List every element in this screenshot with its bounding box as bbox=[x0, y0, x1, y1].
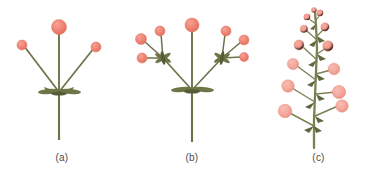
pedicel bbox=[315, 106, 338, 116]
pedicel bbox=[292, 88, 315, 102]
raceme-node bbox=[316, 10, 323, 20]
flower-head bbox=[136, 34, 147, 45]
panel-b-compound-umbel: (b) bbox=[118, 0, 266, 171]
bract-leaf bbox=[317, 54, 326, 61]
raceme-node bbox=[317, 41, 333, 61]
raceme-node bbox=[316, 63, 340, 81]
panel-c-drawing bbox=[268, 0, 369, 155]
flower-bud bbox=[321, 23, 329, 31]
flower-head bbox=[17, 40, 27, 50]
primary-ray-left bbox=[163, 58, 192, 90]
pedicel bbox=[297, 66, 316, 80]
bract-leaf bbox=[316, 94, 325, 101]
bract-leaf bbox=[304, 126, 314, 133]
pedicel bbox=[303, 47, 317, 60]
inflorescence-figure: (a) bbox=[0, 0, 369, 171]
panel-b-caption: (b) bbox=[118, 152, 266, 163]
panel-a-caption: (a) bbox=[0, 152, 124, 163]
bract-leaf bbox=[315, 116, 324, 123]
flower-head bbox=[294, 40, 304, 50]
apex-bud bbox=[311, 7, 316, 12]
flower-head bbox=[323, 41, 333, 51]
secondary-umbel-left bbox=[136, 26, 172, 65]
flower-bud bbox=[304, 14, 310, 20]
flower-head bbox=[155, 26, 165, 36]
flower-head bbox=[137, 53, 147, 63]
primary-ray-right bbox=[192, 58, 222, 90]
flower-head bbox=[185, 18, 199, 32]
flower-head bbox=[221, 26, 231, 36]
flower-head bbox=[282, 80, 294, 92]
pedicel-right bbox=[59, 48, 94, 92]
flower-bud bbox=[317, 10, 323, 16]
secondary-umbel-right bbox=[213, 26, 249, 65]
panel-b-drawing bbox=[118, 0, 266, 155]
flower-head bbox=[91, 42, 101, 52]
flower-head bbox=[240, 53, 249, 62]
raceme-node bbox=[316, 85, 346, 101]
flower-head bbox=[336, 100, 348, 112]
flower-head bbox=[287, 58, 298, 69]
bract-leaf bbox=[317, 36, 325, 43]
flower-head bbox=[328, 63, 340, 75]
panel-c-raceme: (c) bbox=[268, 0, 369, 171]
flower-head bbox=[332, 85, 345, 98]
panel-c-caption: (c) bbox=[268, 152, 369, 163]
pedicel-left bbox=[24, 46, 59, 92]
bract-leaf bbox=[314, 126, 322, 133]
panel-a-drawing bbox=[0, 0, 124, 155]
raceme-node bbox=[317, 23, 329, 43]
bract-leaf bbox=[316, 74, 325, 81]
flower-bud bbox=[300, 25, 308, 33]
panel-a-simple-umbel: (a) bbox=[0, 0, 124, 171]
pedicel bbox=[288, 112, 314, 126]
raceme-node bbox=[315, 100, 348, 123]
flower-head bbox=[52, 20, 67, 35]
flower-head bbox=[239, 35, 249, 45]
flower-head bbox=[278, 104, 292, 118]
